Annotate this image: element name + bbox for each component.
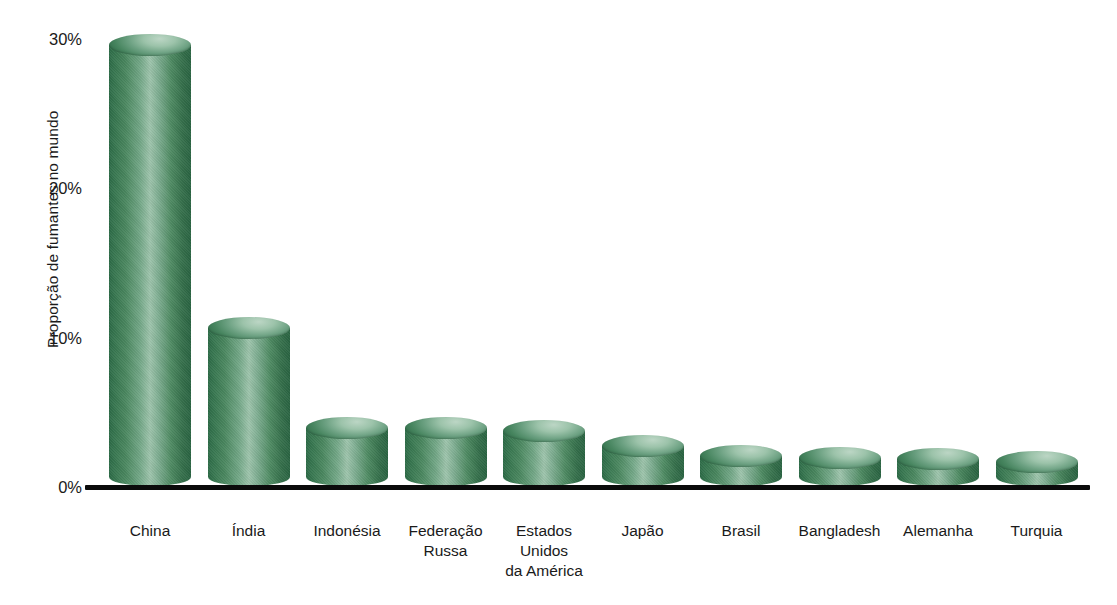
- bar: [602, 446, 684, 486]
- x-tick-label: Indonésia: [298, 521, 397, 541]
- bar-body: [109, 45, 191, 486]
- bar: [208, 328, 290, 486]
- x-tick-label: Estados Unidos da América: [495, 521, 594, 581]
- y-tick-label-0: 0%: [24, 479, 82, 496]
- bar: [799, 458, 881, 486]
- x-tick-label: Brasil: [692, 521, 791, 541]
- bar-top-ellipse: [208, 317, 290, 339]
- bar-chart: Proporção de fumantes no mundo 30% 20% 1…: [0, 0, 1117, 605]
- bar: [996, 462, 1078, 486]
- y-tick-label-10: 10%: [24, 330, 82, 347]
- bar-top-ellipse: [602, 435, 684, 457]
- bar-top-ellipse: [996, 451, 1078, 473]
- x-tick-label: Federação Russa: [396, 521, 495, 561]
- bar-top-ellipse: [799, 447, 881, 469]
- x-axis-line: [85, 485, 1090, 490]
- y-axis-tick-labels: 30% 20% 10% 0%: [20, 0, 82, 605]
- x-tick-label: Bangladesh: [790, 521, 889, 541]
- plot-area: [85, 0, 1095, 492]
- bar: [897, 459, 979, 486]
- bar: [503, 431, 585, 486]
- bar-top-ellipse: [700, 445, 782, 467]
- bar: [700, 456, 782, 486]
- y-tick-label-20: 20%: [24, 180, 82, 197]
- bar: [306, 428, 388, 486]
- bar: [405, 428, 487, 486]
- bar-top-ellipse: [503, 420, 585, 442]
- bar-top-ellipse: [109, 34, 191, 56]
- bar: [109, 45, 191, 486]
- bar-top-ellipse: [405, 417, 487, 439]
- x-tick-label: Alemanha: [889, 521, 988, 541]
- bar-top-ellipse: [306, 417, 388, 439]
- x-tick-label: Índia: [199, 521, 298, 541]
- bar-top-ellipse: [897, 448, 979, 470]
- x-tick-label: Turquia: [987, 521, 1086, 541]
- x-tick-label: Japão: [593, 521, 692, 541]
- bar-body: [208, 328, 290, 486]
- x-tick-label: China: [101, 521, 200, 541]
- y-tick-label-30: 30%: [24, 31, 82, 48]
